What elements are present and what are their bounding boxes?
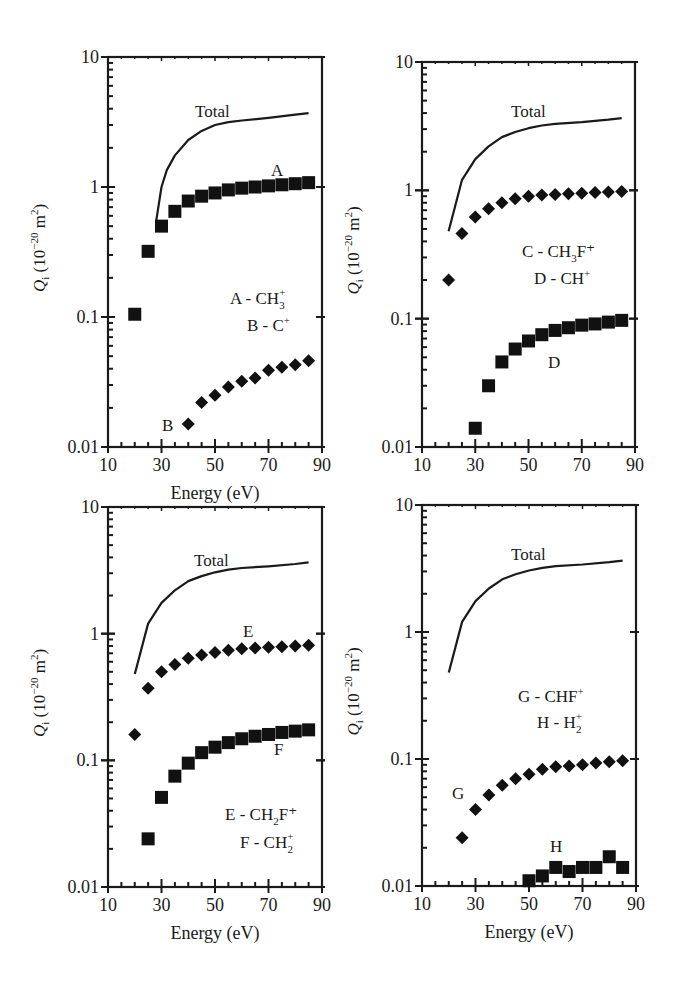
svg-text:10: 10	[413, 455, 431, 475]
square-marker	[575, 319, 588, 332]
svg-text:30: 30	[467, 894, 485, 914]
diamond-marker	[302, 354, 315, 367]
square-marker	[495, 355, 508, 368]
series-f	[142, 723, 316, 845]
diamond-marker	[602, 186, 615, 199]
square-marker	[603, 850, 616, 863]
diamond-marker	[168, 658, 181, 671]
diamond-marker	[522, 190, 535, 203]
svg-text:0.01: 0.01	[68, 877, 100, 897]
diamond-marker	[195, 648, 208, 661]
diamond-marker	[222, 644, 235, 657]
series-total	[449, 561, 623, 673]
square-marker	[249, 181, 262, 194]
diamond-marker	[615, 185, 628, 198]
diamond-marker	[603, 755, 616, 768]
diamond-marker	[262, 641, 275, 654]
x-tick-labels: 1030507090	[413, 894, 645, 914]
svg-text:90: 90	[627, 894, 645, 914]
diamond-marker	[549, 188, 562, 201]
square-marker	[142, 832, 155, 845]
diamond-marker	[535, 188, 548, 201]
square-marker	[589, 861, 602, 874]
legend: A - CH+3B - C+	[230, 286, 290, 335]
svg-text:0.01: 0.01	[68, 437, 100, 457]
square-marker	[235, 732, 248, 745]
square-marker	[302, 176, 315, 189]
diamond-marker	[209, 389, 222, 402]
diamond-marker	[275, 361, 288, 374]
square-marker	[289, 177, 302, 190]
square-marker	[249, 730, 262, 743]
diamond-marker	[275, 640, 288, 653]
diamond-marker	[442, 274, 455, 287]
series-e	[128, 639, 315, 741]
svg-text:0.1: 0.1	[77, 307, 100, 327]
svg-text:50: 50	[520, 894, 538, 914]
square-marker	[262, 179, 275, 192]
diamond-marker	[302, 639, 315, 652]
diamond-marker	[222, 380, 235, 393]
square-marker	[209, 741, 222, 754]
legend-entry-2: B - C+	[247, 314, 290, 335]
figure-canvas: 0.010.11101030507090Qi (10−20 m2)Energy …	[0, 0, 683, 981]
series-label: B	[162, 416, 173, 435]
square-marker	[616, 861, 629, 874]
square-marker	[549, 861, 562, 874]
svg-text:10: 10	[99, 455, 117, 475]
svg-text:90: 90	[313, 895, 331, 915]
svg-text:70: 70	[260, 895, 278, 915]
svg-text:30: 30	[466, 455, 484, 475]
series-label: Total	[195, 102, 230, 121]
diamond-marker	[589, 186, 602, 199]
svg-text:50: 50	[206, 895, 224, 915]
square-marker	[222, 183, 235, 196]
svg-text:1: 1	[404, 622, 413, 642]
diamond-marker	[549, 760, 562, 773]
square-marker	[128, 308, 141, 321]
y-tick-labels: 0.010.1110	[68, 497, 100, 897]
series-a	[128, 176, 315, 321]
series-d	[469, 314, 628, 435]
square-marker	[615, 314, 628, 327]
diamond-marker	[235, 642, 248, 655]
svg-text:30: 30	[153, 455, 171, 475]
series-label: G	[452, 784, 464, 803]
y-axis-label: Qi (10−20 m2)	[28, 649, 51, 737]
total-curve	[449, 561, 623, 673]
diamond-marker	[182, 418, 195, 431]
diamond-marker	[289, 358, 302, 371]
series-total	[135, 562, 309, 674]
legend-entry-2: H - H+2	[537, 710, 582, 735]
svg-text:30: 30	[153, 895, 171, 915]
y-tick-labels: 0.010.1110	[382, 52, 414, 457]
diamond-marker	[482, 202, 495, 215]
square-marker	[302, 723, 315, 736]
square-marker	[576, 861, 589, 874]
chart-panel-1: 0.010.11101030507090Qi (10−20 m2)Energy …	[28, 47, 331, 504]
series-label: F	[274, 740, 283, 759]
legend-entry-1: E - CH2F⁺	[225, 805, 297, 827]
diamond-marker	[182, 652, 195, 665]
svg-text:0.01: 0.01	[382, 876, 414, 896]
series-label: Total	[511, 102, 546, 121]
square-marker	[168, 205, 181, 218]
square-marker	[589, 317, 602, 330]
diamond-marker	[249, 371, 262, 384]
series-b	[182, 354, 315, 430]
diamond-marker	[142, 682, 155, 695]
svg-text:70: 70	[574, 894, 592, 914]
diamond-marker	[509, 772, 522, 785]
svg-text:10: 10	[413, 894, 431, 914]
x-tick-labels: 1030507090	[413, 455, 644, 475]
diamond-marker	[616, 754, 629, 767]
diamond-marker	[482, 789, 495, 802]
legend-entry-2: D - CH+	[534, 267, 590, 288]
square-marker	[182, 195, 195, 208]
diamond-marker	[235, 375, 248, 388]
square-marker	[168, 770, 181, 783]
square-marker	[563, 865, 576, 878]
diamond-marker	[563, 760, 576, 773]
chart-panel-3: 0.010.11101030507090Qi (10−20 m2)Energy …	[28, 497, 331, 944]
diamond-marker	[496, 779, 509, 792]
